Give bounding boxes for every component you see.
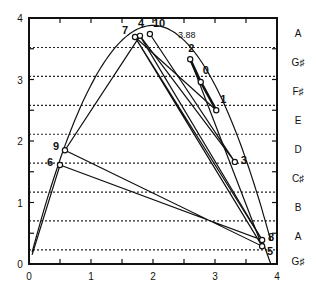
y-tick-label: 3 <box>17 75 23 86</box>
note-label: C♯ <box>292 173 304 184</box>
note-label: F♯ <box>292 86 303 97</box>
data-point <box>198 79 203 84</box>
data-point <box>188 57 193 62</box>
x-tick-label: 2 <box>150 271 156 282</box>
note-label: A <box>295 28 302 39</box>
point-label: 3 <box>241 154 247 166</box>
data-point <box>132 34 137 39</box>
data-point <box>62 148 67 153</box>
data-point <box>232 159 237 164</box>
point-label: 5 <box>267 245 273 257</box>
note-label: B <box>295 202 302 213</box>
x-tick-label: 3 <box>212 271 218 282</box>
data-point <box>147 31 152 36</box>
cobweb-chart: 012345678910 0123401234 AG♯F♯EDC♯BAG♯ 3.… <box>0 0 316 305</box>
cobweb-segment <box>190 59 262 246</box>
peak-value-label: 3.88 <box>178 30 196 40</box>
data-point <box>57 162 62 167</box>
point-label: 1 <box>220 93 226 105</box>
data-point <box>260 244 265 249</box>
point-label: 9 <box>53 140 59 152</box>
cobweb-segment <box>140 36 262 240</box>
note-label: G♯ <box>292 256 305 267</box>
note-label: G♯ <box>292 57 305 68</box>
parabola-curve <box>32 25 271 252</box>
note-label: E <box>295 115 302 126</box>
point-label: 6 <box>47 156 53 168</box>
note-labels: AG♯F♯EDC♯BAG♯ <box>292 28 305 267</box>
point-label: 2 <box>188 42 194 54</box>
data-point <box>214 108 219 113</box>
x-tick-label: 4 <box>274 271 280 282</box>
cobweb-segment <box>32 34 262 255</box>
y-tick-label: 1 <box>17 198 23 209</box>
point-label: 7 <box>122 24 128 36</box>
data-point <box>260 237 265 242</box>
note-label: A <box>295 231 302 242</box>
point-label: 0 <box>203 64 209 76</box>
note-label: D <box>294 144 301 155</box>
y-tick-label: 2 <box>17 136 23 147</box>
y-tick-label: 4 <box>17 13 23 24</box>
x-tick-label: 1 <box>88 271 94 282</box>
x-tick-label: 0 <box>26 271 32 282</box>
y-tick-label: 0 <box>17 259 23 270</box>
